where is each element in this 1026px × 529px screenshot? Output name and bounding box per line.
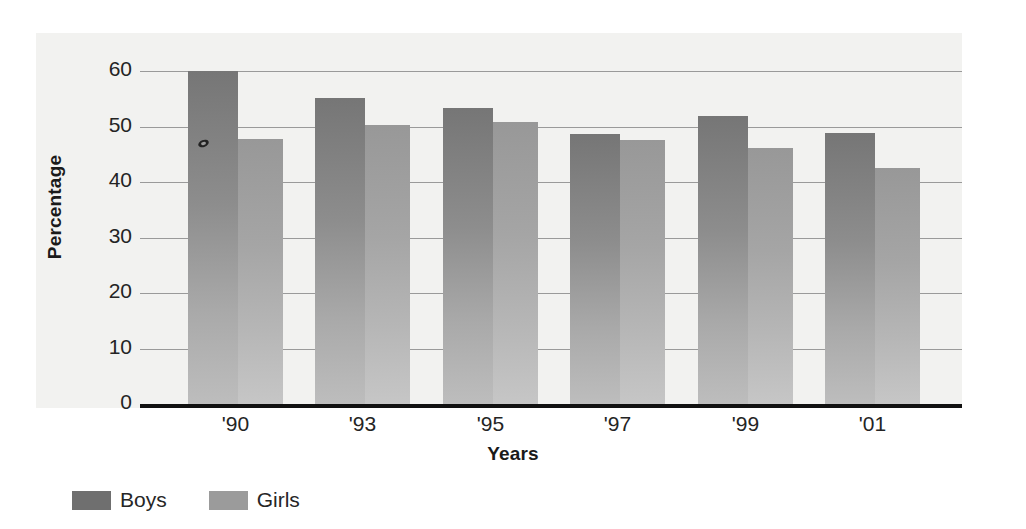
legend-label: Girls (257, 488, 300, 512)
bar-girls-01 (875, 168, 920, 404)
bar-girls-90 (238, 139, 283, 404)
x-tick-label: '99 (686, 412, 806, 436)
legend-item-boys[interactable]: Boys (72, 488, 167, 512)
bar-girls-97 (620, 140, 665, 404)
bar-boys-90 (188, 71, 238, 404)
bar-girls-93 (365, 125, 410, 404)
bar-boys-99 (698, 116, 748, 404)
legend-swatch-boys (72, 491, 111, 510)
bar-boys-01 (825, 133, 875, 404)
x-tick-label: '90 (176, 412, 296, 436)
bar-boys-95 (443, 108, 493, 404)
x-tick-label: '93 (303, 412, 423, 436)
bar-boys-97 (570, 134, 620, 404)
bar-boys-93 (315, 98, 365, 404)
x-tick-label: '01 (813, 412, 933, 436)
x-axis-baseline (140, 404, 962, 408)
bar-chart: 6050403020100 Percentage '90'93'95'97'99… (0, 0, 1026, 529)
legend-swatch-girls (209, 491, 248, 510)
legend-item-girls[interactable]: Girls (209, 488, 300, 512)
x-tick-label: '97 (558, 412, 678, 436)
legend-label: Boys (120, 488, 167, 512)
x-axis-title: Years (0, 443, 1026, 465)
bar-girls-99 (748, 148, 793, 404)
x-tick-label: '95 (431, 412, 551, 436)
chart-legend: BoysGirls (72, 488, 300, 512)
bar-girls-95 (493, 122, 538, 404)
